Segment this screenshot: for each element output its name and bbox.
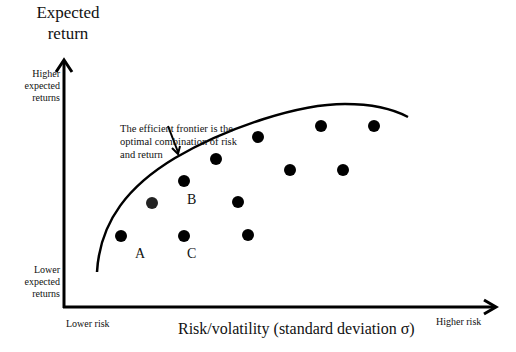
x-high-label: Higher risk bbox=[436, 316, 481, 327]
frontier-annotation: The efficient frontier is the optimal co… bbox=[120, 122, 320, 161]
y-axis-title: Expected return bbox=[18, 2, 118, 44]
y-low-label: Lower expected returns bbox=[8, 264, 60, 300]
diagram-canvas bbox=[0, 0, 516, 352]
x-axis bbox=[63, 300, 496, 314]
x-axis-title: Risk/volatility (standard deviation σ) bbox=[178, 320, 415, 338]
point-label-a: A bbox=[135, 246, 145, 262]
x-low-label: Lower risk bbox=[66, 318, 110, 329]
y-high-label: Higher expected returns bbox=[8, 68, 60, 104]
point-label-b: B bbox=[187, 192, 196, 208]
point-label-c: C bbox=[187, 246, 196, 262]
